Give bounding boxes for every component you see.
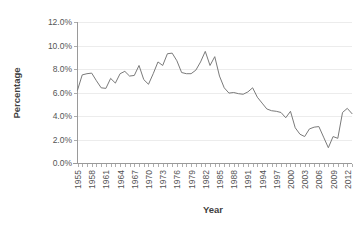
x-axis-tick-label: 1958: [87, 170, 97, 189]
x-axis-tick-label: 1967: [130, 170, 140, 189]
gridlines-group: [78, 23, 353, 164]
x-axis-tick-label: 1970: [144, 170, 154, 189]
x-axis-tick-label: 1979: [187, 170, 197, 189]
y-axis-title: Percentage: [11, 67, 22, 118]
x-axis-tick-label: 1997: [272, 170, 282, 189]
y-axis-tick-label: 8.0%: [53, 64, 73, 74]
x-axis-tick-label: 1991: [243, 170, 253, 189]
y-axis-tick-label: 12.0%: [48, 17, 73, 27]
data-series-line: [78, 51, 353, 147]
y-axis-tick-label: 2.0%: [53, 135, 73, 145]
x-axis-tick-label: 1982: [201, 170, 211, 189]
x-axis-tick-label: 2000: [286, 170, 296, 189]
y-axis-tick-label: 0.0%: [53, 158, 73, 168]
x-axis-title: Year: [203, 204, 223, 215]
y-axis-tick-labels: 0.0%2.0%4.0%6.0%8.0%10.0%12.0%: [48, 17, 78, 168]
x-axis-tick-label: 2009: [329, 170, 339, 189]
y-axis-tick-label: 10.0%: [48, 41, 73, 51]
x-axis-tick-label: 1994: [258, 170, 268, 189]
y-axis-tick-label: 4.0%: [53, 111, 73, 121]
x-axis-tick-label: 2012: [343, 170, 353, 189]
x-axis-tick-label: 1988: [229, 170, 239, 189]
x-axis-tick-label: 1976: [172, 170, 182, 189]
x-axis-tick-labels: 1955195819611964196719701973197619791982…: [73, 170, 353, 189]
chart-container: 0.0%2.0%4.0%6.0%8.0%10.0%12.0% 195519581…: [0, 0, 362, 225]
line-chart-svg: 0.0%2.0%4.0%6.0%8.0%10.0%12.0% 195519581…: [0, 0, 362, 225]
y-axis-tick-label: 6.0%: [53, 88, 73, 98]
x-axis-tick-label: 1973: [158, 170, 168, 189]
x-axis-tick-label: 1985: [215, 170, 225, 189]
x-axis-tick-label: 1964: [116, 170, 126, 189]
x-axis-tick-label: 2006: [314, 170, 324, 189]
x-axis-tick-label: 1955: [73, 170, 83, 189]
x-axis-tick-label: 2003: [300, 170, 310, 189]
x-axis-tick-label: 1961: [101, 170, 111, 189]
